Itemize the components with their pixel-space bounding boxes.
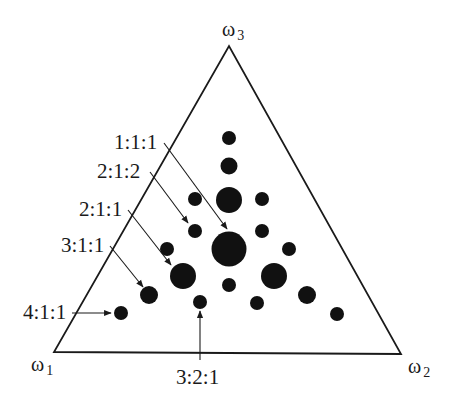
ratio-label-1-1-1: 1:1:1 <box>114 132 157 153</box>
composition-dot <box>193 295 207 309</box>
composition-dot <box>298 286 316 304</box>
ratio-label-4-1-1: 4:1:1 <box>23 302 66 323</box>
composition-dot <box>188 224 202 238</box>
omega-subscript: 2 <box>423 365 430 380</box>
vertex-label-omega-3: ω3 <box>222 19 244 43</box>
omega-symbol: ω <box>31 353 44 375</box>
omega-symbol: ω <box>222 18 235 40</box>
composition-dot <box>282 242 296 256</box>
omega-subscript: 3 <box>237 28 244 43</box>
composition-dot <box>330 307 344 321</box>
dot-grid <box>114 131 344 321</box>
ratio-label-2-1-1: 2:1:1 <box>79 199 122 220</box>
composition-dot <box>222 131 236 145</box>
composition-dot <box>250 296 264 310</box>
arrow-2-1-1-icon <box>128 210 171 265</box>
composition-dot <box>212 232 247 267</box>
composition-dot <box>255 224 269 238</box>
composition-dot <box>140 286 158 304</box>
omega-symbol: ω <box>408 355 421 377</box>
composition-dot <box>216 187 242 213</box>
arrow-3-1-1-icon <box>110 246 143 287</box>
composition-dot <box>188 192 202 206</box>
composition-dot <box>261 263 287 289</box>
composition-dot <box>222 278 236 292</box>
vertex-label-omega-2: ω2 <box>408 356 430 380</box>
composition-dot <box>221 158 238 175</box>
ternary-diagram <box>0 0 456 402</box>
ratio-label-3-2-1: 3:2:1 <box>176 367 219 388</box>
vertex-label-omega-1: ω1 <box>31 354 53 378</box>
composition-dot <box>114 306 128 320</box>
ratio-label-2-1-2: 2:1:2 <box>97 161 140 182</box>
composition-dot <box>170 263 196 289</box>
composition-dot <box>255 192 269 206</box>
omega-subscript: 1 <box>46 363 53 378</box>
arrow-1-1-1-icon <box>164 143 227 229</box>
ratio-label-3-1-1: 3:1:1 <box>61 235 104 256</box>
arrow-2-1-2-icon <box>150 172 188 223</box>
